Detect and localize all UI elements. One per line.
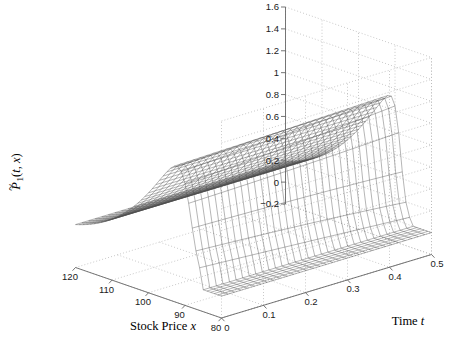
mesh-line (374, 238, 378, 239)
mesh-line (399, 204, 403, 219)
mesh-line (311, 241, 315, 256)
mesh-line (326, 260, 330, 261)
mesh-line (405, 234, 412, 236)
mesh-line (275, 232, 279, 249)
mesh-line (248, 184, 252, 212)
mesh-line (321, 254, 325, 255)
mesh-line (215, 193, 222, 195)
mesh-line (269, 268, 276, 270)
mesh-line (395, 239, 402, 241)
mesh-line (253, 275, 260, 277)
mesh-line (351, 245, 358, 247)
mesh-line (229, 241, 236, 243)
grid-line (286, 7, 432, 58)
mesh-line (407, 228, 411, 229)
mesh-line (236, 280, 240, 281)
mesh-line (205, 224, 209, 247)
mesh-line (208, 195, 215, 197)
mesh-line (207, 291, 211, 292)
mesh-line (349, 255, 353, 256)
z-tick-label: 1.6 (266, 1, 279, 12)
mesh-line (335, 255, 339, 256)
z-tick-label: 0.6 (266, 111, 279, 122)
mesh-line (391, 236, 395, 237)
mesh-line (300, 268, 304, 269)
mesh-line (300, 167, 304, 198)
mesh-line (286, 270, 293, 272)
mesh-line (299, 261, 306, 263)
mesh-line (281, 173, 285, 203)
mesh-line (216, 246, 220, 263)
mesh-line (316, 259, 323, 261)
mesh-line (375, 247, 379, 248)
mesh-line (245, 213, 249, 238)
mesh-line (377, 225, 381, 236)
mesh-line (216, 286, 220, 287)
mesh-line (343, 187, 347, 215)
mesh-line (387, 234, 391, 235)
z-tick-label: 0.8 (266, 89, 279, 100)
mesh-line (189, 203, 193, 228)
mesh-line (273, 276, 277, 277)
mesh-line (332, 256, 339, 258)
mesh-line (410, 228, 417, 230)
mesh-line (208, 160, 215, 162)
mesh-line (276, 272, 280, 273)
mesh-line (345, 249, 349, 250)
mesh-line (329, 255, 336, 257)
mesh-line (375, 111, 382, 114)
mesh-line (238, 287, 245, 289)
mesh-line (322, 259, 326, 260)
mesh-line (397, 232, 404, 234)
mesh-line (234, 288, 238, 289)
mesh-line (292, 265, 296, 266)
mesh-line (211, 292, 215, 293)
x-tick-label: 80 (211, 322, 222, 333)
mesh-line (283, 275, 287, 276)
mesh-line (308, 224, 312, 241)
mesh-line (289, 267, 296, 269)
mesh-line (399, 133, 403, 172)
mesh-line (209, 248, 213, 265)
mesh-line (214, 294, 218, 295)
mesh-line (312, 259, 316, 260)
mesh-line (251, 212, 255, 237)
grid-line (202, 229, 348, 280)
mesh-line (396, 172, 403, 174)
mesh-line (411, 234, 415, 235)
mesh-line (225, 219, 229, 243)
mesh-line (212, 223, 216, 246)
mesh-line (367, 209, 374, 210)
mesh-line (361, 240, 368, 242)
grid-line (244, 217, 390, 268)
mesh-line (241, 184, 248, 186)
mesh-line (287, 274, 294, 276)
mesh-line (206, 266, 210, 288)
mesh-line (418, 235, 425, 237)
mesh-line (243, 278, 247, 279)
mesh-line (302, 260, 306, 261)
mesh-line (259, 253, 263, 272)
mesh-line (221, 190, 228, 192)
mesh-line (195, 201, 199, 226)
mesh-line (301, 224, 308, 226)
mesh-line (221, 193, 225, 219)
y-tick-label: 0.3 (346, 283, 359, 294)
mesh-line (361, 242, 365, 243)
mesh-line (227, 283, 234, 285)
mesh-line (265, 252, 269, 270)
mesh-line (339, 254, 346, 256)
mesh-line (251, 210, 258, 212)
mesh-line (224, 286, 231, 288)
mesh-line (294, 272, 301, 274)
z-axis-title-part: ~ (4, 184, 18, 191)
mesh-line (368, 243, 375, 245)
mesh-line (400, 230, 404, 231)
mesh-line (240, 279, 247, 281)
mesh-line (308, 222, 315, 224)
mesh-line (264, 208, 268, 233)
mesh-line (266, 271, 273, 273)
mesh-line (248, 182, 255, 184)
mesh-line (281, 230, 285, 247)
mesh-line (285, 246, 292, 248)
